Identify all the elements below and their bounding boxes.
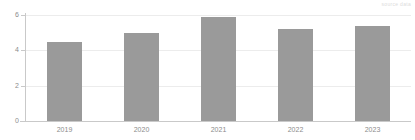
y-tick-mark (21, 15, 26, 16)
x-tick-label: 2022 (257, 126, 334, 134)
y-tick-mark (21, 86, 26, 87)
bar (355, 26, 390, 121)
y-tick-label: 6 (5, 11, 19, 18)
watermark-text: source data (382, 1, 411, 7)
x-tick-label: 2019 (26, 126, 103, 134)
y-tick-label: 2 (5, 82, 19, 89)
y-tick-label: 0 (5, 117, 19, 124)
x-tick-label: 2020 (103, 126, 180, 134)
bar (278, 29, 313, 121)
y-tick-mark (21, 50, 26, 51)
bar (124, 33, 159, 121)
bar (47, 42, 82, 122)
y-tick-label: 4 (5, 46, 19, 53)
y-tick-mark (21, 121, 26, 122)
x-tick-label: 2021 (180, 126, 257, 134)
x-axis-line (20, 121, 411, 122)
bar-chart: source data 0246 20192020202120222023 (0, 0, 415, 140)
bar (201, 17, 236, 121)
x-tick-label: 2023 (334, 126, 411, 134)
